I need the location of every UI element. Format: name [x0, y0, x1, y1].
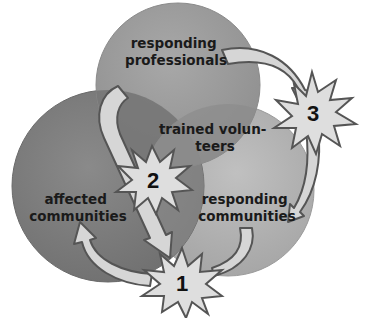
step-number-3: 3	[307, 101, 319, 126]
step-number-2: 2	[147, 168, 159, 193]
venn-cycle-diagram: responding professionals trained volun- …	[0, 0, 373, 318]
label-responding-professionals: responding professionals	[125, 35, 227, 68]
step-number-1: 1	[176, 271, 188, 296]
label-responding-communities: responding communities	[198, 191, 296, 224]
